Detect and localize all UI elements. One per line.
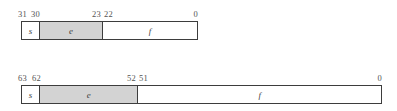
bit-field-cell-e: e bbox=[39, 22, 102, 39]
bit-index-label: 22 bbox=[104, 8, 113, 20]
bit-field-cell-e: e bbox=[39, 86, 137, 103]
bit-field-box: sef bbox=[21, 85, 382, 104]
bit-index-label: 62 bbox=[32, 72, 41, 84]
bit-field-cell-s: s bbox=[22, 22, 39, 39]
bit-field-cell-s: s bbox=[22, 86, 39, 103]
bit-index-label: 0 bbox=[194, 8, 198, 20]
bit-index-label: 0 bbox=[378, 72, 382, 84]
bit-index-label: 52 bbox=[127, 72, 136, 84]
bit-index-label: 30 bbox=[31, 8, 40, 20]
bit-index-label: 63 bbox=[18, 72, 27, 84]
bit-index-label: 31 bbox=[18, 8, 27, 20]
bit-field-cell-f: f bbox=[102, 22, 197, 39]
bit-field-cell-f: f bbox=[137, 86, 381, 103]
bit-field-box: sef bbox=[21, 21, 198, 40]
bit-index-label: 51 bbox=[139, 72, 148, 84]
bit-index-label: 23 bbox=[92, 8, 101, 20]
